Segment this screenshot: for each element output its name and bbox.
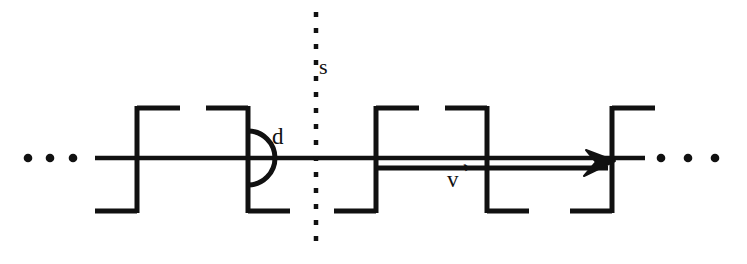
ellipsis-left-icon (24, 154, 78, 163)
defect-label-d: d (272, 125, 284, 148)
chain-diagram-svg (0, 0, 747, 264)
diagram-canvas: s d v › (0, 0, 747, 264)
separator-label-s: s (319, 56, 328, 78)
ellipsis-right-icon (657, 154, 720, 163)
velocity-label-v: v (447, 168, 459, 191)
velocity-vector-arrow (376, 150, 615, 176)
